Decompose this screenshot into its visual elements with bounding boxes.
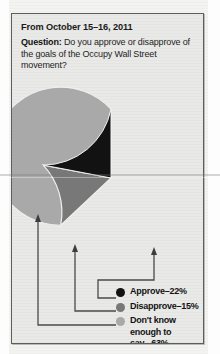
legend-label-approve: Approve–22% (130, 286, 187, 298)
legend-item-disapprove[interactable]: Disapprove–15% (116, 301, 199, 313)
disapprove-dot (116, 303, 125, 312)
arrowhead-disapprove (72, 244, 78, 252)
page-gutter-left (0, 0, 9, 354)
question-label: Question: (21, 37, 62, 47)
dont-know-dot (116, 317, 125, 326)
legend-label-disapprove: Disapprove–15% (130, 301, 199, 313)
page-gutter-right (208, 0, 220, 354)
poll-question: Question: Do you approve or disapprove o… (21, 37, 197, 72)
chart-legend: Approve–22% Disapprove–15% Don't know en… (116, 286, 199, 344)
arrowhead-approve (151, 247, 157, 255)
legend-label-dont-know: Don't know enough to say –63% (130, 315, 176, 344)
poll-result-panel: From October 15–16, 2011 Question: Do yo… (11, 13, 204, 344)
legend-item-approve[interactable]: Approve–22% (116, 286, 199, 298)
poll-date-line: From October 15–16, 2011 (21, 21, 197, 34)
legend-item-dont-know[interactable]: Don't know enough to say –63% (116, 315, 199, 344)
poll-header: From October 15–16, 2011 Question: Do yo… (21, 21, 197, 72)
approve-dot (116, 288, 125, 297)
leader-line-dont-know (38, 220, 116, 325)
